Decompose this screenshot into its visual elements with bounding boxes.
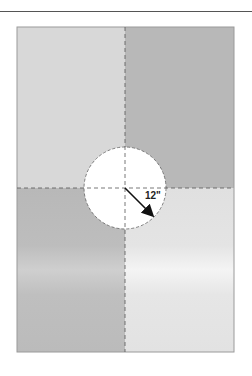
radius-label: 12" — [145, 190, 161, 201]
floor-plan-diagram — [0, 0, 252, 376]
